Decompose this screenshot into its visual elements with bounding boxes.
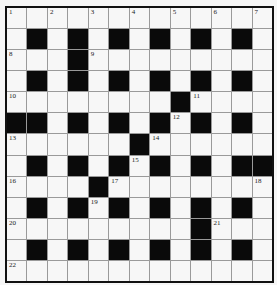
crossword-cell[interactable]	[130, 71, 149, 91]
crossword-cell[interactable]	[171, 261, 190, 281]
crossword-cell[interactable]	[89, 219, 108, 239]
crossword-cell[interactable]	[150, 177, 169, 197]
crossword-cell[interactable]	[232, 261, 251, 281]
crossword-cell[interactable]: 12	[171, 113, 190, 133]
crossword-cell[interactable]	[212, 198, 231, 218]
crossword-cell[interactable]	[48, 71, 67, 91]
crossword-cell[interactable]	[171, 198, 190, 218]
crossword-cell[interactable]	[253, 92, 272, 112]
crossword-cell[interactable]	[130, 198, 149, 218]
crossword-cell[interactable]	[130, 50, 149, 70]
crossword-cell[interactable]	[109, 219, 128, 239]
crossword-cell[interactable]	[232, 134, 251, 154]
crossword-cell[interactable]	[150, 219, 169, 239]
crossword-cell[interactable]	[150, 261, 169, 281]
crossword-cell[interactable]: 19	[89, 198, 108, 218]
crossword-cell[interactable]	[27, 219, 46, 239]
crossword-cell[interactable]	[191, 50, 210, 70]
crossword-cell[interactable]	[212, 71, 231, 91]
crossword-cell[interactable]	[89, 261, 108, 281]
crossword-cell[interactable]	[89, 71, 108, 91]
crossword-cell[interactable]	[253, 29, 272, 49]
crossword-cell[interactable]	[89, 29, 108, 49]
crossword-cell[interactable]	[130, 29, 149, 49]
crossword-cell[interactable]	[68, 261, 87, 281]
crossword-cell[interactable]	[253, 71, 272, 91]
crossword-cell[interactable]	[171, 240, 190, 260]
crossword-cell[interactable]	[130, 261, 149, 281]
crossword-cell[interactable]	[48, 113, 67, 133]
crossword-cell[interactable]: 2	[48, 8, 67, 28]
crossword-cell[interactable]	[48, 92, 67, 112]
crossword-cell[interactable]	[48, 29, 67, 49]
crossword-cell[interactable]	[109, 92, 128, 112]
crossword-cell[interactable]: 5	[171, 8, 190, 28]
crossword-cell[interactable]	[48, 134, 67, 154]
crossword-cell[interactable]: 22	[7, 261, 26, 281]
crossword-cell[interactable]	[171, 71, 190, 91]
crossword-cell[interactable]	[150, 8, 169, 28]
crossword-cell[interactable]: 21	[212, 219, 231, 239]
crossword-cell[interactable]	[171, 50, 190, 70]
crossword-cell[interactable]: 17	[109, 177, 128, 197]
crossword-cell[interactable]: 15	[130, 156, 149, 176]
crossword-cell[interactable]	[27, 177, 46, 197]
crossword-cell[interactable]	[48, 156, 67, 176]
crossword-cell[interactable]	[48, 261, 67, 281]
crossword-cell[interactable]	[253, 261, 272, 281]
crossword-cell[interactable]	[130, 92, 149, 112]
crossword-cell[interactable]	[89, 240, 108, 260]
crossword-cell[interactable]	[27, 50, 46, 70]
crossword-cell[interactable]	[212, 156, 231, 176]
crossword-cell[interactable]	[27, 261, 46, 281]
crossword-cell[interactable]	[253, 134, 272, 154]
crossword-cell[interactable]	[171, 177, 190, 197]
crossword-cell[interactable]	[232, 8, 251, 28]
crossword-cell[interactable]	[191, 177, 210, 197]
crossword-cell[interactable]	[89, 134, 108, 154]
crossword-cell[interactable]: 9	[89, 50, 108, 70]
crossword-cell[interactable]: 4	[130, 8, 149, 28]
crossword-cell[interactable]	[130, 240, 149, 260]
crossword-cell[interactable]	[68, 8, 87, 28]
crossword-cell[interactable]: 8	[7, 50, 26, 70]
crossword-cell[interactable]	[232, 50, 251, 70]
crossword-cell[interactable]	[7, 29, 26, 49]
crossword-cell[interactable]	[212, 50, 231, 70]
crossword-cell[interactable]	[89, 156, 108, 176]
crossword-cell[interactable]: 18	[253, 177, 272, 197]
crossword-cell[interactable]	[48, 219, 67, 239]
crossword-cell[interactable]: 11	[191, 92, 210, 112]
crossword-cell[interactable]	[171, 219, 190, 239]
crossword-cell[interactable]	[109, 8, 128, 28]
crossword-cell[interactable]	[171, 134, 190, 154]
crossword-cell[interactable]	[253, 113, 272, 133]
crossword-cell[interactable]	[48, 50, 67, 70]
crossword-cell[interactable]: 10	[7, 92, 26, 112]
crossword-cell[interactable]	[68, 92, 87, 112]
crossword-cell[interactable]	[130, 177, 149, 197]
crossword-cell[interactable]	[48, 177, 67, 197]
crossword-cell[interactable]	[253, 240, 272, 260]
crossword-cell[interactable]	[171, 29, 190, 49]
crossword-cell[interactable]: 7	[253, 8, 272, 28]
crossword-cell[interactable]	[150, 50, 169, 70]
crossword-cell[interactable]	[48, 240, 67, 260]
crossword-cell[interactable]	[253, 50, 272, 70]
crossword-cell[interactable]: 14	[150, 134, 169, 154]
crossword-cell[interactable]: 20	[7, 219, 26, 239]
crossword-cell[interactable]	[48, 198, 67, 218]
crossword-cell[interactable]	[191, 261, 210, 281]
crossword-cell[interactable]: 3	[89, 8, 108, 28]
crossword-cell[interactable]	[212, 240, 231, 260]
crossword-cell[interactable]	[130, 113, 149, 133]
crossword-cell[interactable]	[253, 219, 272, 239]
crossword-cell[interactable]	[212, 261, 231, 281]
crossword-cell[interactable]: 6	[212, 8, 231, 28]
crossword-cell[interactable]	[191, 134, 210, 154]
crossword-cell[interactable]	[232, 177, 251, 197]
crossword-cell[interactable]	[109, 134, 128, 154]
crossword-cell[interactable]	[212, 177, 231, 197]
crossword-cell[interactable]	[212, 29, 231, 49]
crossword-cell[interactable]	[212, 113, 231, 133]
